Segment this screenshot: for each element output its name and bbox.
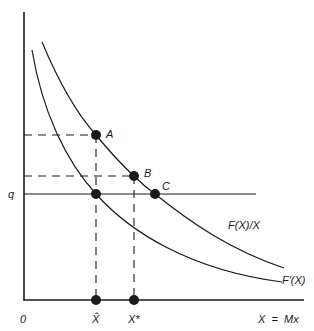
point-a-label: A bbox=[105, 128, 113, 140]
x-tick-label-xhat: X̂ bbox=[91, 312, 100, 325]
point-c-dot bbox=[150, 189, 160, 199]
point-b-dot bbox=[129, 171, 139, 181]
point-xhat-axis-dot bbox=[91, 295, 101, 305]
curve-average-fx-over-x bbox=[42, 42, 284, 268]
point-intersection-dot bbox=[91, 189, 101, 199]
diagram-canvas: A B C q 0 X̂ X* X = Mx F(X)/X F'(X) bbox=[0, 0, 314, 331]
curve-average-label: F(X)/X bbox=[228, 219, 260, 231]
point-c-label: C bbox=[162, 180, 170, 192]
origin-label: 0 bbox=[20, 313, 27, 325]
point-b-label: B bbox=[144, 167, 151, 179]
x-axis-label: X = Mx bbox=[257, 313, 299, 325]
point-a-dot bbox=[91, 130, 101, 140]
x-tick-label-xstar: X* bbox=[127, 313, 140, 325]
y-axis-q-label: q bbox=[8, 188, 15, 200]
curve-marginal-label: F'(X) bbox=[282, 274, 306, 286]
curve-marginal-f-prime bbox=[32, 50, 282, 282]
point-xstar-axis-dot bbox=[129, 295, 139, 305]
